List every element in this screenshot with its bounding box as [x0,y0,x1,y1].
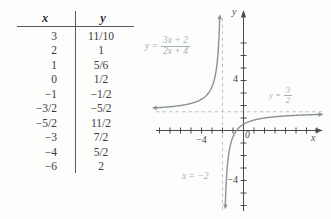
x-axis-label: x [311,132,315,143]
curve-top-arrow-icon [217,14,221,19]
curve-right-arrow-icon [319,112,324,116]
curve-bottom-arrow-icon [223,204,227,209]
h-asymptote-prefix: y = [269,90,281,100]
equation-denominator: 2x + 4 [163,47,188,57]
equation-prefix: y = [145,41,158,51]
curve-left-arrow-icon [152,106,157,110]
h-asymptote-denominator: 2 [286,96,290,105]
function-curve-right-branch [225,114,318,204]
y-tick-label-4: 4 [216,73,238,84]
y-axis-arrow-icon [241,10,246,18]
textbook-figure: x y 311/10 21 15/6 01/2 −1−1/2 −3/2−5/2 … [0,0,331,219]
horizontal-asymptote-label: y = 3 2 [269,86,292,105]
origin-label: 0 [245,130,250,140]
equation-fraction: 3x + 2 2x + 4 [161,36,190,57]
y-axis-label: y [232,6,236,17]
h-asymptote-fraction: 3 2 [284,86,292,105]
vertical-asymptote-label: x = −2 [182,171,209,181]
function-curve-left-branch [157,19,220,108]
graph-canvas [0,0,331,219]
y-tick-label-minus4: −4 [212,174,238,185]
function-equation-label: y = 3x + 2 2x + 4 [145,36,190,57]
x-tick-label-minus4: −4 [191,134,212,145]
